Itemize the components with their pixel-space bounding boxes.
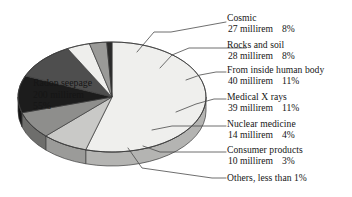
radon-label-title: Radon seepage: [33, 77, 92, 89]
callout-values-cosmic: 27 millirem8%: [227, 24, 295, 34]
callout-title-nuclear-medicine: Nuclear medicine: [227, 119, 296, 129]
callout-title-cosmic: Cosmic: [227, 13, 295, 23]
callout-title-inside-human-body: From inside human body: [227, 65, 324, 75]
callout-title-medical-x-rays: Medical X rays: [227, 92, 299, 102]
callout-percent-rocks-and-soil: 8%: [282, 50, 295, 61]
callout-amount-consumer-products: 10 millirem: [228, 155, 273, 166]
callout-amount-medical-x-rays: 39 millirem: [228, 102, 273, 113]
callout-title-consumer-products: Consumer products: [227, 145, 303, 155]
callout-percent-inside-human-body: 11%: [282, 75, 299, 86]
callout-others: Others, less than 1%: [227, 173, 307, 183]
callout-percent-medical-x-rays: 11%: [282, 102, 299, 113]
callout-values-nuclear-medicine: 14 millirem4%: [227, 130, 296, 140]
callout-percent-nuclear-medicine: 4%: [282, 129, 295, 140]
slice-label-radon-seepage: Radon seepage 200 millirem 55%: [33, 77, 92, 112]
callout-medical-x-rays: Medical X rays 39 millirem11%: [227, 92, 299, 113]
callout-title-rocks-and-soil: Rocks and soil: [227, 40, 295, 50]
callout-amount-inside-human-body: 40 millirem: [228, 75, 273, 86]
callout-amount-rocks-and-soil: 28 millirem: [228, 50, 273, 61]
callout-cosmic: Cosmic 27 millirem8%: [227, 13, 295, 34]
callout-nuclear-medicine: Nuclear medicine 14 millirem4%: [227, 119, 296, 140]
callout-amount-cosmic: 27 millirem: [228, 23, 273, 34]
callout-values-consumer-products: 10 millirem3%: [227, 156, 303, 166]
callout-percent-consumer-products: 3%: [282, 155, 295, 166]
callout-rocks-and-soil: Rocks and soil 28 millirem8%: [227, 40, 295, 61]
callout-percent-cosmic: 8%: [282, 23, 295, 34]
pie-chart: Radon seepage 200 millirem 55% Cosmic 27…: [0, 0, 352, 197]
callout-values-medical-x-rays: 39 millirem11%: [227, 103, 299, 113]
callout-inside-human-body: From inside human body 40 millirem11%: [227, 65, 324, 86]
callout-values-inside-human-body: 40 millirem11%: [227, 76, 324, 86]
callout-values-rocks-and-soil: 28 millirem8%: [227, 51, 295, 61]
callout-amount-nuclear-medicine: 14 millirem: [228, 129, 273, 140]
radon-label-percent: 55%: [33, 100, 92, 112]
radon-label-amount: 200 millirem: [33, 89, 92, 101]
callout-consumer-products: Consumer products 10 millirem3%: [227, 145, 303, 166]
callout-title-others: Others, less than 1%: [227, 173, 307, 183]
